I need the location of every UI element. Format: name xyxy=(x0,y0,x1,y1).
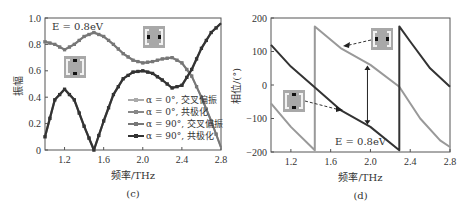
y-axis-label: 相位/(°) xyxy=(230,68,242,104)
series-marker xyxy=(53,98,56,101)
x-tick-label: 1.2 xyxy=(285,156,298,167)
legend-marker xyxy=(134,122,138,126)
series-marker xyxy=(73,43,76,46)
series-marker xyxy=(131,59,134,62)
legend-marker xyxy=(134,134,138,138)
series-marker xyxy=(43,135,46,138)
series-marker xyxy=(63,48,66,51)
series-marker xyxy=(161,57,164,60)
legend-label: α = 90°, 交叉偏振 xyxy=(146,118,223,129)
legend-marker xyxy=(134,98,138,102)
unit-cell-icon xyxy=(143,26,165,48)
x-tick-label: 2.8 xyxy=(444,156,457,167)
unit-cell-icon xyxy=(64,56,86,78)
unit-cell-icon xyxy=(283,90,305,112)
series-marker xyxy=(122,77,125,80)
x-tick-label: 1.2 xyxy=(58,154,71,165)
y-tick-label: 0.8 xyxy=(29,39,42,50)
series-marker xyxy=(102,119,105,122)
series-marker xyxy=(215,26,218,29)
series-marker xyxy=(48,117,51,120)
y-tick-label: 0 xyxy=(262,80,267,91)
series-marker xyxy=(63,88,66,91)
series-marker xyxy=(195,85,198,88)
series-marker xyxy=(166,82,169,85)
figure: 1.21.62.02.42.800.20.40.60.81.0频率/THz(c)… xyxy=(0,0,466,207)
energy-annotation: E = 0.8eV xyxy=(335,136,387,147)
series-marker xyxy=(68,45,71,48)
legend-label: α = 90°, 共极化 xyxy=(146,130,214,141)
panel-label: (c) xyxy=(126,188,140,199)
y-tick-label: 1.0 xyxy=(29,13,42,24)
series-marker xyxy=(151,72,154,75)
panel-label: (d) xyxy=(353,190,367,201)
series-marker xyxy=(92,31,95,34)
series-marker xyxy=(161,78,164,81)
series-marker xyxy=(117,85,120,88)
series-marker xyxy=(210,31,213,34)
y-tick-label: 0.4 xyxy=(29,92,42,103)
series-marker xyxy=(107,39,110,42)
legend-label: α = 0°, 交叉偏振 xyxy=(146,94,217,105)
series-marker xyxy=(180,84,183,87)
y-axis-label: 振幅 xyxy=(12,76,24,96)
series-marker xyxy=(171,56,174,59)
series-marker xyxy=(78,111,81,114)
x-tick-label: 2.4 xyxy=(404,156,417,167)
series-marker xyxy=(68,93,71,96)
y-tick-label: 200 xyxy=(252,13,267,24)
series-marker xyxy=(156,75,159,78)
plot-frame xyxy=(271,18,450,152)
y-tick-label: 0.2 xyxy=(29,118,42,129)
x-tick-label: 2.0 xyxy=(364,156,377,167)
series-marker xyxy=(205,39,208,42)
series-marker xyxy=(190,68,193,71)
y-tick-label: 100 xyxy=(252,46,267,57)
series-marker xyxy=(117,47,120,50)
legend-marker xyxy=(134,110,138,114)
series-marker xyxy=(141,61,144,64)
x-tick-label: 2.8 xyxy=(215,154,228,165)
series-marker xyxy=(190,74,193,77)
series-marker xyxy=(92,148,95,151)
series-marker xyxy=(58,45,61,48)
unit-cell-icon xyxy=(371,28,393,50)
series-marker xyxy=(83,125,86,128)
series-marker xyxy=(200,47,203,50)
series-marker xyxy=(131,71,134,74)
series-marker xyxy=(180,61,183,64)
series-marker xyxy=(83,35,86,38)
y-tick-label: −200 xyxy=(246,147,267,158)
series-marker xyxy=(78,39,81,42)
series-marker xyxy=(175,85,178,88)
x-axis-label: 频率/THz xyxy=(111,169,155,181)
amplitude-chart: 1.21.62.02.42.800.20.40.60.81.0频率/THz(c)… xyxy=(12,13,227,200)
series-marker xyxy=(127,55,130,58)
series-marker xyxy=(151,60,154,63)
series-marker xyxy=(156,59,159,62)
x-tick-label: 2.4 xyxy=(176,154,189,165)
series-marker xyxy=(146,61,149,64)
series-marker xyxy=(127,74,130,77)
legend-label: α = 0°, 共极化 xyxy=(146,106,208,117)
series-marker xyxy=(53,43,56,46)
y-tick-label: −100 xyxy=(246,113,267,124)
series-marker xyxy=(97,134,100,137)
series-marker xyxy=(97,33,100,36)
x-axis-label: 频率/THz xyxy=(338,171,382,183)
series-marker xyxy=(58,93,61,96)
series-marker xyxy=(215,133,218,136)
energy-annotation: E = 0.8eV xyxy=(52,21,104,32)
series-marker xyxy=(102,35,105,38)
series-marker xyxy=(136,60,139,63)
x-tick-label: 1.6 xyxy=(97,154,110,165)
series-line xyxy=(271,26,450,150)
series-marker xyxy=(87,137,90,140)
series-line xyxy=(271,26,450,150)
series-marker xyxy=(136,70,139,73)
series-marker xyxy=(122,52,125,55)
arrowhead-icon xyxy=(343,42,350,48)
series-marker xyxy=(146,71,149,74)
series-marker xyxy=(112,93,115,96)
series-marker xyxy=(195,57,198,60)
